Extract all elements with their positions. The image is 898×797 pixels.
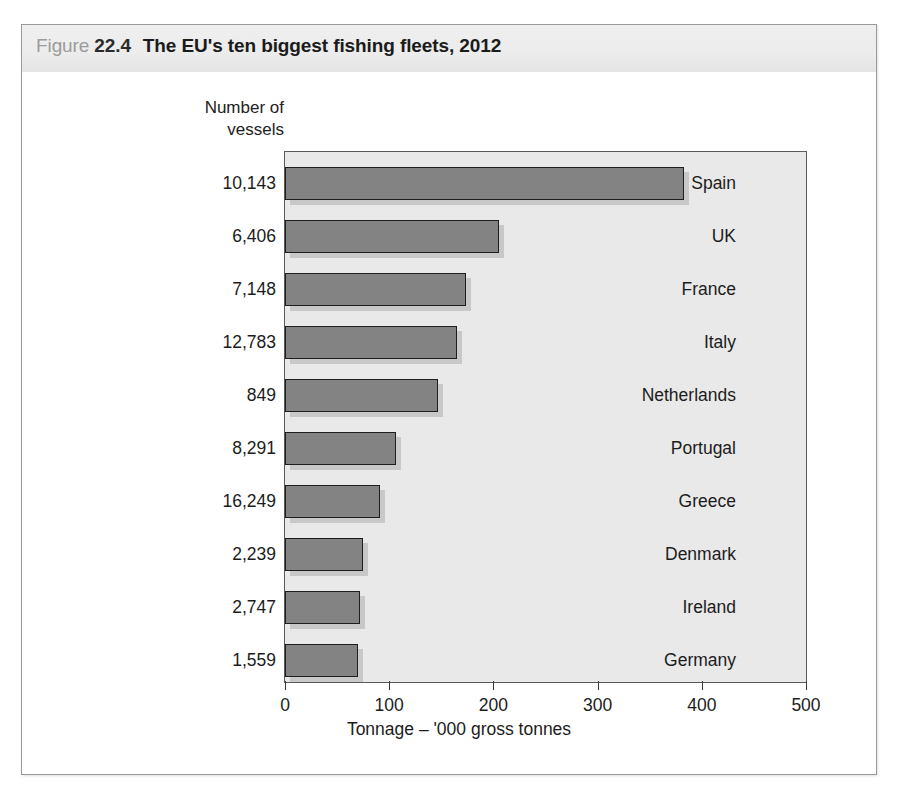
x-axis-tick-label: 400 [672,695,732,716]
x-axis-title: Tonnage – '000 gross tonnes [22,719,876,740]
x-axis-tick-label: 500 [776,695,836,716]
bar[interactable] [285,432,396,465]
country-label: France [516,279,736,300]
vessel-count-value: 10,143 [172,173,276,194]
x-axis-tick [702,681,703,690]
bar[interactable] [285,326,457,359]
country-label: Netherlands [516,385,736,406]
vessel-count-value: 849 [172,385,276,406]
x-axis-title-text: Tonnage – '000 gross tonnes [347,719,571,740]
vessel-count-value: 12,783 [172,332,276,353]
bar[interactable] [285,591,360,624]
figure-title-band: Figure22.4The EU's ten biggest fishing f… [22,25,876,72]
bar[interactable] [285,485,380,518]
figure-container: Figure22.4The EU's ten biggest fishing f… [21,24,877,775]
vessel-count-value: 16,249 [172,491,276,512]
bar[interactable] [285,220,499,253]
country-label: Greece [516,491,736,512]
figure-title: Figure22.4The EU's ten biggest fishing f… [36,35,501,57]
country-label: Denmark [516,544,736,565]
country-label: Spain [516,173,736,194]
vessel-count-value: 7,148 [172,279,276,300]
x-axis-tick [285,681,286,690]
x-axis-tick-label: 200 [463,695,523,716]
country-label: UK [516,226,736,247]
figure-title-text: The EU's ten biggest fishing fleets, 201… [143,35,501,56]
bar[interactable] [285,379,438,412]
vessel-count-value: 2,239 [172,544,276,565]
x-axis-tick [806,681,807,690]
x-axis-tick [493,681,494,690]
figure-number: 22.4 [94,35,131,56]
vessel-count-value: 1,559 [172,650,276,671]
vessel-count-value: 2,747 [172,597,276,618]
bar[interactable] [285,273,466,306]
vessels-header-line-2: vessels [172,119,284,141]
country-label: Ireland [516,597,736,618]
x-axis-tick-label: 0 [255,695,315,716]
bar[interactable] [285,644,358,677]
vessels-column-header: Number of vessels [172,97,284,142]
vessel-count-value: 8,291 [172,438,276,459]
figure-label-word: Figure [36,35,89,56]
x-axis-tick [598,681,599,690]
country-label: Germany [516,650,736,671]
country-label: Italy [516,332,736,353]
vessel-count-value: 6,406 [172,226,276,247]
x-axis-tick-label: 300 [568,695,628,716]
x-axis-tick [389,681,390,690]
bar[interactable] [285,538,363,571]
x-axis-tick-label: 100 [359,695,419,716]
country-label: Portugal [516,438,736,459]
vessels-header-line-1: Number of [172,97,284,119]
